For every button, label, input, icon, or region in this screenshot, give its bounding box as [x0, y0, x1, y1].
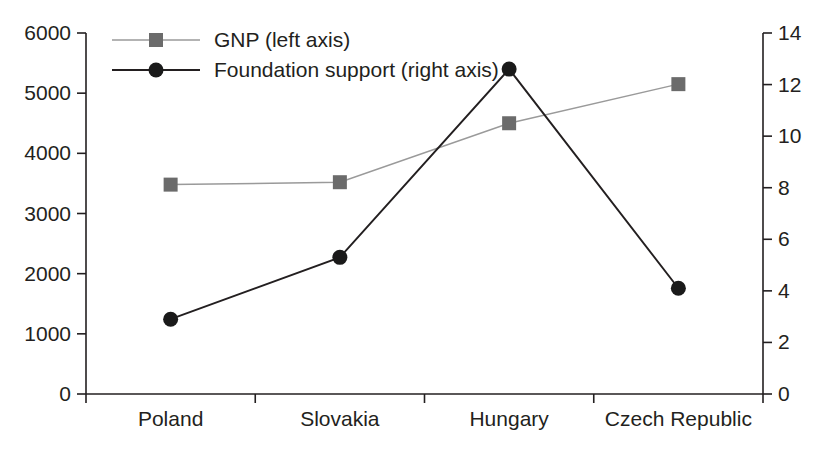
legend-marker	[149, 63, 164, 78]
left-axis-tick-label: 4000	[24, 141, 71, 164]
right-axis-tick-label: 8	[778, 176, 790, 199]
data-point-marker	[163, 312, 178, 327]
right-axis-tick-label: 10	[778, 124, 801, 147]
data-point-marker	[671, 77, 685, 91]
right-axis-tick-label: 4	[778, 279, 790, 302]
data-point-marker	[332, 250, 347, 265]
data-point-marker	[671, 281, 686, 296]
series-layer	[163, 62, 686, 327]
right-axis-tick-label: 12	[778, 73, 801, 96]
x-axis-ticks	[86, 394, 763, 403]
right-axis-ticks: 02468101214	[763, 21, 802, 405]
x-axis-category-label: Poland	[138, 407, 203, 430]
chart-legend: GNP (left axis)Foundation support (right…	[112, 28, 499, 81]
axes-group	[86, 33, 763, 394]
data-point-marker	[333, 175, 347, 189]
series-foundation-support	[163, 62, 686, 327]
right-axis-tick-label: 0	[778, 382, 790, 405]
left-axis-tick-label: 0	[59, 382, 71, 405]
x-axis-category-labels: PolandSlovakiaHungaryCzech Republic	[138, 407, 752, 430]
left-axis-tick-label: 3000	[24, 202, 71, 225]
legend-label: Foundation support (right axis)	[214, 58, 499, 81]
legend-item: Foundation support (right axis)	[112, 58, 499, 81]
left-axis-tick-label: 5000	[24, 81, 71, 104]
right-axis-tick-label: 14	[778, 21, 802, 44]
dual-axis-line-chart: 0100020003000400050006000 02468101214 Po…	[0, 0, 820, 451]
series-gnp	[164, 77, 686, 191]
data-point-marker	[502, 116, 516, 130]
x-axis-category-label: Hungary	[469, 407, 549, 430]
x-axis-category-label: Slovakia	[300, 407, 380, 430]
left-axis-ticks: 0100020003000400050006000	[24, 21, 86, 405]
left-axis-tick-label: 2000	[24, 262, 71, 285]
x-axis-category-label: Czech Republic	[605, 407, 752, 430]
right-axis-tick-label: 2	[778, 330, 790, 353]
chart-container: 0100020003000400050006000 02468101214 Po…	[0, 0, 820, 451]
right-axis-tick-label: 6	[778, 227, 790, 250]
data-point-marker	[502, 62, 517, 77]
legend-item: GNP (left axis)	[112, 28, 350, 51]
data-point-marker	[164, 178, 178, 192]
legend-marker	[149, 33, 163, 47]
left-axis-tick-label: 1000	[24, 322, 71, 345]
legend-label: GNP (left axis)	[214, 28, 350, 51]
left-axis-tick-label: 6000	[24, 21, 71, 44]
